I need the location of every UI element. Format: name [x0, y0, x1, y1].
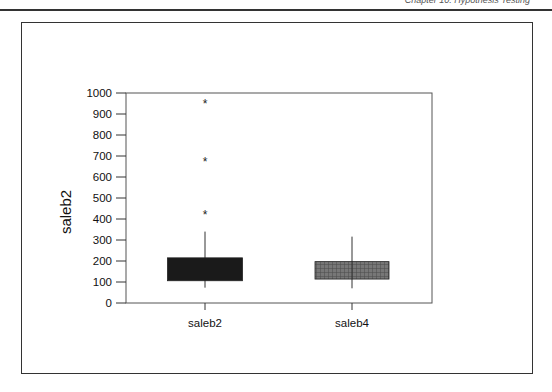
x-tick-label: saleb4 [335, 317, 369, 329]
y-axis-title: saleb2 [57, 190, 74, 234]
y-tick-label: 1000 [86, 87, 112, 99]
y-tick-label: 300 [93, 234, 112, 246]
y-tick-label: 600 [93, 171, 112, 183]
outlier-marker: * [203, 97, 208, 111]
box-saleb4 [315, 237, 389, 289]
outlier-marker: * [203, 208, 208, 222]
y-tick-label: 200 [93, 255, 112, 267]
y-axis: 01002003004005006007008009001000 [86, 87, 126, 309]
y-tick-label: 700 [93, 150, 112, 162]
y-tick-label: 500 [93, 192, 112, 204]
y-tick-label: 0 [106, 297, 112, 309]
boxes: *** [168, 97, 390, 289]
y-tick-label: 400 [93, 213, 112, 225]
outlier-marker: * [203, 155, 208, 169]
x-axis: saleb2saleb4 [188, 303, 369, 329]
y-tick-label: 900 [93, 108, 112, 120]
box-saleb2: *** [168, 97, 243, 288]
y-tick-label: 100 [93, 276, 112, 288]
x-tick-label: saleb2 [188, 317, 222, 329]
y-tick-label: 800 [93, 129, 112, 141]
boxplot-chart: 01002003004005006007008009001000 saleb2s… [0, 0, 552, 392]
